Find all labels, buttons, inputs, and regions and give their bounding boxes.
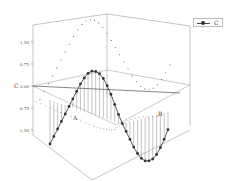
chart-3d-plot: 1.50 0.75 0.00 -0.75 -1.50 C A B <box>0 0 229 181</box>
back-wall-projection <box>39 19 170 100</box>
data-point <box>79 83 82 86</box>
data-point <box>106 84 109 87</box>
data-point <box>60 120 63 123</box>
data-point <box>64 113 67 116</box>
data-point <box>117 113 120 116</box>
droplines <box>50 71 168 161</box>
z-tick-label: -1.50 <box>19 128 30 133</box>
data-point <box>121 122 124 125</box>
data-point <box>52 135 55 138</box>
z-axis: 1.50 0.75 0.00 -0.75 -1.50 C <box>14 40 33 133</box>
data-point <box>163 138 166 141</box>
z-tick-label: 0.75 <box>20 62 29 67</box>
data-point <box>129 138 132 141</box>
data-point <box>136 152 139 155</box>
data-point <box>83 76 86 79</box>
data-point <box>132 146 135 149</box>
legend: C <box>193 18 223 27</box>
data-point <box>98 72 101 75</box>
data-point <box>90 70 93 73</box>
data-point <box>102 77 105 80</box>
data-point <box>167 128 170 131</box>
data-point <box>110 93 113 96</box>
data-point <box>140 157 143 160</box>
x-axis-title: A <box>72 114 78 121</box>
data-point <box>151 158 154 161</box>
data-point <box>71 98 74 101</box>
series-c-markers <box>49 70 170 163</box>
data-point <box>125 130 128 133</box>
data-point <box>75 90 78 93</box>
z-tick-label: 1.50 <box>20 40 29 45</box>
data-point <box>144 160 147 163</box>
data-point <box>56 128 59 131</box>
z-tick-label: -0.75 <box>19 106 30 111</box>
data-point <box>148 159 151 162</box>
data-point <box>49 143 52 146</box>
data-point <box>155 153 158 156</box>
data-point <box>94 70 97 73</box>
zero-plane <box>33 70 190 125</box>
data-point <box>87 72 90 75</box>
legend-label: C <box>214 19 219 27</box>
data-point <box>159 146 162 149</box>
series-c-line <box>50 71 168 161</box>
z-axis-title: C <box>14 82 19 89</box>
data-point <box>113 103 116 106</box>
legend-marker-icon <box>201 21 205 25</box>
z-tick-label: 0.00 <box>20 84 29 89</box>
data-point <box>68 105 71 108</box>
